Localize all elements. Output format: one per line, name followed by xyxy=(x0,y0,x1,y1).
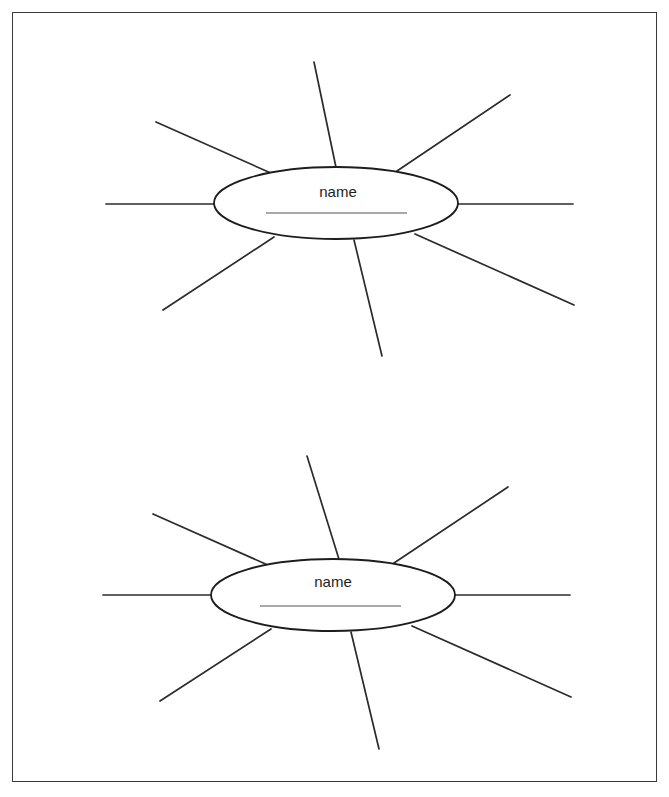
ray-upper-right[interactable] xyxy=(394,487,508,563)
ray-lower-left[interactable] xyxy=(160,629,271,701)
ray-bottom[interactable] xyxy=(351,632,379,749)
ray-upper-left[interactable] xyxy=(153,514,270,566)
ray-lower-right[interactable] xyxy=(412,626,571,697)
worksheet-border-frame: name name xyxy=(12,12,657,782)
center-bubble-label: name xyxy=(314,573,352,590)
ray-top[interactable] xyxy=(307,456,342,569)
cluster-diagram-2: name xyxy=(13,13,658,783)
worksheet-page: name name xyxy=(0,0,669,797)
center-bubble[interactable] xyxy=(211,559,455,631)
